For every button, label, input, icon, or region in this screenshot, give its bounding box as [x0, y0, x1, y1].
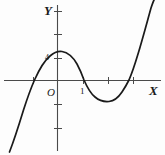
y-axis-label: Y	[44, 4, 52, 17]
graph-figure: Y X O 1 4	[0, 0, 165, 155]
origin-label: O	[47, 87, 55, 98]
cubic-plot-svg	[0, 0, 165, 155]
y-tick-label-four: 4	[45, 54, 49, 62]
cubic-curve	[10, 0, 155, 152]
x-axis-label: X	[149, 84, 158, 97]
x-tick-label-one: 1	[80, 87, 85, 96]
